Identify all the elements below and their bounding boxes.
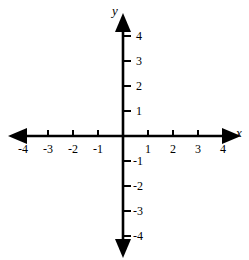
x-tick-label--3: -3 bbox=[43, 143, 53, 155]
x-tick-label--1: -1 bbox=[93, 143, 103, 155]
y-tick-label-2: 2 bbox=[136, 80, 142, 92]
y-tick-label--1: -1 bbox=[133, 155, 143, 167]
x-tick-label-4: 4 bbox=[220, 143, 226, 155]
coordinate-plane-figure: -4 -3 -2 -1 1 2 3 4 4 3 2 1 -1 -2 -3 -4 … bbox=[0, 0, 249, 260]
y-tick-label-1: 1 bbox=[136, 105, 142, 117]
y-tick-label-3: 3 bbox=[136, 55, 142, 67]
x-tick-label-3: 3 bbox=[195, 143, 201, 155]
x-axis-label: x bbox=[236, 126, 242, 139]
x-tick-label--4: -4 bbox=[18, 143, 28, 155]
y-tick-label-4: 4 bbox=[136, 30, 142, 42]
x-tick-label-2: 2 bbox=[170, 143, 176, 155]
x-tick-label--2: -2 bbox=[68, 143, 78, 155]
x-tick-label-1: 1 bbox=[145, 143, 151, 155]
y-axis-down-arrowhead bbox=[115, 239, 131, 258]
y-tick-label--4: -4 bbox=[133, 230, 143, 242]
y-axis-label: y bbox=[112, 4, 118, 17]
axes-graphic bbox=[0, 0, 249, 260]
y-tick-label--2: -2 bbox=[133, 180, 143, 192]
y-tick-label--3: -3 bbox=[133, 205, 143, 217]
